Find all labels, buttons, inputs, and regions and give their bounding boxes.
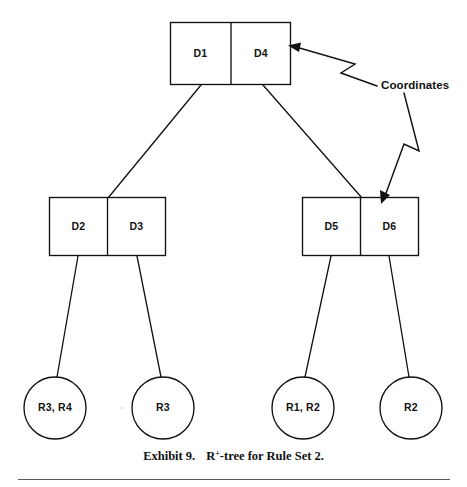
internal-cell-label-d2: D2 xyxy=(72,220,86,232)
edge-d1-to-left-node xyxy=(108,85,201,198)
edge-d4-to-right-node xyxy=(263,85,362,198)
annotation-leader-upper xyxy=(288,43,377,87)
internal-cell-label-d3: D3 xyxy=(130,220,144,232)
edge-d3-to-leaf-2 xyxy=(137,256,161,377)
leaf-label-4: R2 xyxy=(404,401,418,413)
edge-d5-to-leaf-3 xyxy=(305,256,331,377)
root-cell-label-d4: D4 xyxy=(254,47,268,59)
root-node[interactable]: D1 D4 xyxy=(171,23,291,85)
leaf-label-3: R1, R2 xyxy=(286,401,320,413)
leaf-label-1: R3, R4 xyxy=(38,401,72,413)
edge-d2-to-leaf-1 xyxy=(57,256,78,377)
caption-number: Exhibit 9. xyxy=(143,449,195,463)
internal-cell-label-d6: D6 xyxy=(383,220,397,232)
leader-line-to-d4 xyxy=(296,47,377,86)
page-bottom-rule xyxy=(18,479,450,480)
figure-container: D1 D4 D2 D3 D5 D6 R3, R4 R3 R1, R2 xyxy=(0,0,467,487)
caption-title-prefix: R xyxy=(206,449,215,463)
leaf-node-2[interactable]: R3 xyxy=(132,377,194,439)
caption-title-rest: -tree for Rule Set 2. xyxy=(220,449,324,463)
edge-group-root xyxy=(108,85,362,198)
root-cell-label-d1: D1 xyxy=(194,47,208,59)
leaf-label-2: R3 xyxy=(156,401,170,413)
leaf-node-1[interactable]: R3, R4 xyxy=(24,377,86,439)
internal-node-right[interactable]: D5 D6 xyxy=(303,198,419,256)
annotation-label-coordinates: Coordinates xyxy=(381,79,449,91)
figure-caption: Exhibit 9.R+-tree for Rule Set 2. xyxy=(0,449,467,464)
scan-speck xyxy=(121,407,123,409)
annotation-leader-lower xyxy=(380,93,419,204)
leaf-node-4[interactable]: R2 xyxy=(380,377,442,439)
tree-diagram-canvas: D1 D4 D2 D3 D5 D6 R3, R4 R3 R1, R2 xyxy=(0,0,467,487)
edge-group-leaves xyxy=(57,256,409,377)
leader-line-to-d6 xyxy=(385,93,419,196)
leaf-node-3[interactable]: R1, R2 xyxy=(272,377,334,439)
internal-cell-label-d5: D5 xyxy=(325,220,339,232)
internal-node-left[interactable]: D2 D3 xyxy=(50,198,166,256)
edge-d6-to-leaf-4 xyxy=(389,256,409,377)
